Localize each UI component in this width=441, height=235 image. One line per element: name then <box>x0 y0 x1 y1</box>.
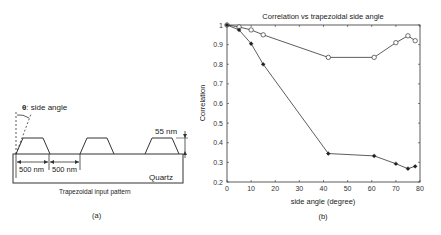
y-tick-label: 0.6 <box>213 100 223 107</box>
pitch-label-2: 500 nm <box>52 165 77 174</box>
chart-title: Correlation vs trapezoidal side angle <box>262 12 383 21</box>
x-tick-label: 30 <box>295 185 303 192</box>
correlation-chart: Correlation vs trapezoidal side angle 01… <box>200 0 441 235</box>
circle-marker <box>413 39 417 43</box>
svg-text:θ: side angle: θ: side angle <box>22 103 68 112</box>
pitch-label-1: 500 nm <box>19 165 44 174</box>
circle-series-line <box>227 25 415 57</box>
circle-marker <box>249 28 253 32</box>
y-tick-label: 1 <box>219 22 223 29</box>
y-axis-label: Correlation <box>200 85 207 122</box>
y-tick-label: 0.7 <box>213 80 223 87</box>
substrate-label: Quartz <box>149 173 173 182</box>
plot-series <box>225 23 418 171</box>
trapezoid-1 <box>16 138 50 154</box>
x-tick-label: 60 <box>368 185 376 192</box>
trapezoid-diagram: θ: side angle 55 nm 500 nm 500 nm Quartz… <box>0 0 200 235</box>
height-label: 55 nm <box>155 127 178 136</box>
trapezoid-3 <box>145 138 179 154</box>
circle-marker <box>406 34 410 38</box>
y-tick-label: 0.2 <box>213 179 223 186</box>
plot-axes: 010203040506070800.20.30.40.50.60.70.80.… <box>213 22 424 193</box>
y-tick-label: 0.4 <box>213 139 223 146</box>
trapezoid-2 <box>80 138 114 154</box>
x-tick-label: 80 <box>416 185 424 192</box>
y-tick-label: 0.5 <box>213 120 223 127</box>
y-tick-label: 0.9 <box>213 41 223 48</box>
panel-a-label: (a) <box>92 211 102 220</box>
angle-arc <box>17 115 29 118</box>
circle-marker <box>326 55 330 59</box>
panel-b-label: (b) <box>318 212 328 221</box>
side-angle-label: : side angle <box>26 103 67 112</box>
x-tick-label: 70 <box>392 185 400 192</box>
plot-frame <box>227 25 420 182</box>
y-tick-label: 0.3 <box>213 159 223 166</box>
circle-marker <box>394 40 398 44</box>
x-tick-label: 0 <box>225 185 229 192</box>
x-axis-label: side angle (degree) <box>291 197 356 206</box>
x-tick-label: 50 <box>344 185 352 192</box>
x-tick-label: 10 <box>247 185 255 192</box>
y-tick-label: 0.8 <box>213 61 223 68</box>
star-series-line <box>227 25 415 169</box>
x-tick-label: 20 <box>271 185 279 192</box>
circle-marker <box>261 33 265 37</box>
circle-marker <box>372 55 376 59</box>
diagram-caption: Trapezoidal input pattern <box>59 188 131 196</box>
x-tick-label: 40 <box>320 185 328 192</box>
